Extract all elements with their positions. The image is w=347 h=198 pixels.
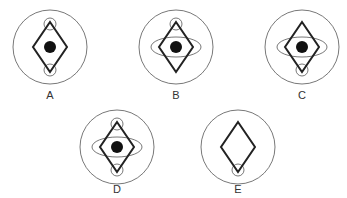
diamond-shape bbox=[221, 122, 255, 172]
option-figure-c bbox=[265, 10, 339, 84]
center-dot bbox=[170, 41, 182, 53]
center-dot bbox=[111, 141, 123, 153]
center-dot bbox=[296, 41, 308, 53]
option-label-e: E bbox=[228, 183, 248, 195]
option-label-c: C bbox=[292, 89, 312, 101]
option-label-d: D bbox=[107, 183, 127, 195]
option-figure-a bbox=[13, 10, 87, 84]
center-dot bbox=[44, 41, 56, 53]
option-label-b: B bbox=[166, 89, 186, 101]
option-figure-d bbox=[80, 110, 154, 184]
option-label-a: A bbox=[40, 89, 60, 101]
option-figure-b bbox=[139, 10, 213, 84]
option-figure-e bbox=[201, 110, 275, 184]
